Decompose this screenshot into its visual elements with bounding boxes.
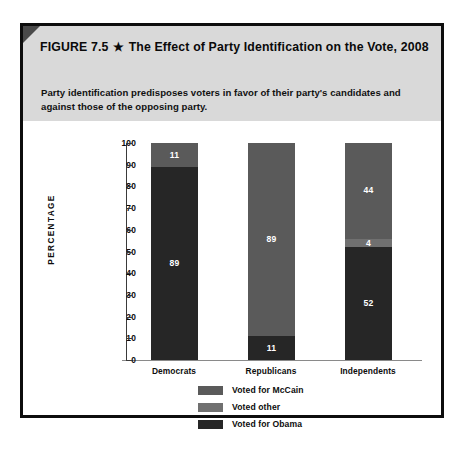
- y-tick-mark: [126, 165, 132, 166]
- bar-segment[interactable]: 52: [345, 247, 392, 360]
- page-title: The Effect of Party Identification on th…: [129, 40, 429, 54]
- figure-title-row: FIGURE 7.5★The Effect of Party Identific…: [40, 40, 429, 55]
- legend-swatch: [198, 403, 223, 412]
- bar-segment-value: 89: [266, 235, 276, 244]
- bar-segment[interactable]: 11: [151, 143, 198, 167]
- legend-item[interactable]: Voted other: [198, 400, 304, 414]
- bar-segment[interactable]: 89: [151, 167, 198, 360]
- chart-plot-area: PERCENTAGE 0102030405060708090100 118989…: [23, 121, 441, 415]
- bar-republicans[interactable]: 8911: [248, 143, 295, 360]
- y-tick-mark: [126, 295, 132, 296]
- x-axis-line: [122, 360, 422, 361]
- y-tick-mark: [126, 273, 132, 274]
- x-category-independents: Independents: [313, 366, 423, 376]
- bar-segment-value: 4: [366, 239, 371, 248]
- bar-segment[interactable]: 89: [248, 143, 295, 336]
- figure-box: FIGURE 7.5★The Effect of Party Identific…: [20, 23, 444, 418]
- figure-subtitle: Party identification predisposes voters …: [41, 86, 419, 113]
- legend-swatch: [198, 420, 223, 429]
- bar-segment-value: 44: [363, 186, 373, 195]
- y-tick-mark: [126, 338, 132, 339]
- bar-segment-value: 11: [170, 151, 180, 160]
- x-category-republicans: Republicans: [216, 366, 326, 376]
- y-tick-mark: [126, 143, 132, 144]
- bar-segment-value: 52: [363, 299, 373, 308]
- legend-label: Voted for McCain: [232, 385, 304, 395]
- y-axis-label: PERCENTAGE: [47, 180, 56, 280]
- y-tick-mark: [126, 208, 132, 209]
- bar-democrats[interactable]: 1189: [151, 143, 198, 360]
- star-icon: ★: [108, 40, 128, 54]
- legend-label: Voted other: [232, 402, 280, 412]
- bar-segment[interactable]: 4: [345, 239, 392, 248]
- figure-header-band: FIGURE 7.5★The Effect of Party Identific…: [23, 26, 441, 121]
- y-tick-mark: [126, 360, 132, 361]
- legend-item[interactable]: Voted for McCain: [198, 383, 304, 397]
- y-tick-mark: [126, 186, 132, 187]
- corner-fold-decoration: [23, 26, 40, 43]
- bar-segment[interactable]: 11: [248, 336, 295, 360]
- bar-independents[interactable]: 44452: [345, 143, 392, 360]
- legend-label: Voted for Obama: [232, 419, 302, 429]
- y-tick-mark: [126, 230, 132, 231]
- legend-item[interactable]: Voted for Obama: [198, 417, 304, 431]
- y-tick-mark: [126, 252, 132, 253]
- bar-segment[interactable]: 44: [345, 143, 392, 238]
- chart-legend: Voted for McCainVoted otherVoted for Oba…: [198, 383, 304, 434]
- legend-swatch: [198, 386, 223, 395]
- x-category-democrats: Democrats: [119, 366, 229, 376]
- bar-segment-value: 11: [267, 344, 277, 353]
- y-tick-mark: [126, 317, 132, 318]
- figure-number: FIGURE 7.5: [40, 40, 108, 54]
- chart-grid: 0102030405060708090100 1189891144452 Dem…: [126, 143, 418, 360]
- bar-segment-value: 89: [169, 259, 179, 268]
